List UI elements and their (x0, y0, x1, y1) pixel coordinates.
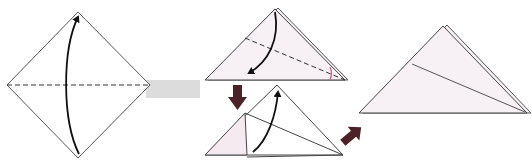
paper-triangle (359, 26, 527, 113)
step-arrow-down-icon (228, 85, 247, 110)
step-3 (205, 85, 343, 157)
step-1 (7, 12, 150, 158)
origami-diagram (0, 0, 532, 168)
gray-band (146, 80, 200, 98)
step-4 (359, 25, 531, 113)
folded-flap (205, 113, 247, 155)
step-2 (205, 8, 348, 80)
step-arrow-up-right-icon (337, 120, 367, 149)
paper-triangle (205, 9, 345, 80)
